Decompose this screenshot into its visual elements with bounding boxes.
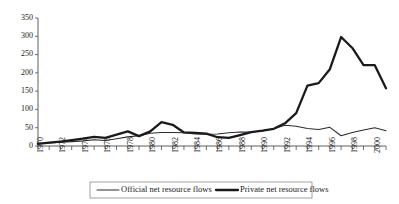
x-tick-label: 1984 [193, 137, 202, 153]
x-tick-label: 1970 [36, 137, 45, 153]
line-chart: 050100150200250300350 197019721974197619… [0, 0, 399, 204]
series-line-private-net-resource-flows [38, 37, 386, 144]
y-tick-label: 100 [21, 104, 33, 113]
y-tick-label: 300 [21, 31, 33, 40]
x-tick-label: 1972 [58, 137, 67, 153]
chart-legend: Official net resource flows Private net … [90, 182, 329, 198]
x-axis-labels: 1970197219741976197819801982198419861988… [36, 137, 382, 153]
y-tick-label: 250 [21, 49, 33, 58]
x-tick-label: 1994 [305, 137, 314, 153]
y-tick-label: 0 [29, 141, 33, 150]
x-tick-label: 1988 [238, 137, 247, 153]
y-tick-label: 200 [21, 68, 33, 77]
legend-label-official: Official net resource flows [121, 184, 212, 194]
chart-container: 050100150200250300350 197019721974197619… [0, 0, 399, 204]
y-tick-label: 50 [25, 123, 33, 132]
y-tick-label: 350 [21, 13, 33, 22]
x-tick-label: 1980 [148, 137, 157, 153]
x-tick-label: 1978 [126, 137, 135, 153]
legend-label-private: Private net resource flows [240, 184, 329, 194]
x-tick-label: 1982 [171, 137, 180, 153]
x-tick-label: 1998 [350, 137, 359, 153]
x-tick-label: 1992 [283, 137, 292, 153]
x-tick-label: 1986 [215, 137, 224, 153]
x-tick-label: 1996 [328, 137, 337, 153]
x-tick-label: 2000 [373, 137, 382, 153]
x-tick-label: 1990 [260, 137, 269, 153]
y-tick-label: 150 [21, 86, 33, 95]
y-axis-labels: 050100150200250300350 [21, 13, 33, 150]
